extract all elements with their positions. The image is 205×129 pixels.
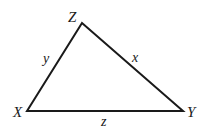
- side-label-xy: z: [100, 114, 107, 129]
- vertex-label-y: Y: [187, 104, 197, 120]
- vertex-label-z: Z: [68, 9, 77, 25]
- vertex-label-x: X: [12, 104, 23, 120]
- triangle-diagram: Z X Y y x z: [0, 0, 205, 129]
- triangle-xyz: [27, 23, 183, 111]
- side-label-zx: y: [41, 51, 50, 66]
- side-label-zy: x: [131, 50, 139, 65]
